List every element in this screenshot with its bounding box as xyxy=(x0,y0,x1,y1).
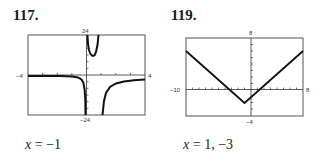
answer-119-value: 1, −3 xyxy=(204,137,233,152)
graph-117-left-branch xyxy=(28,76,86,115)
graph-119-frame xyxy=(186,38,303,116)
graph-117-xmax-label: 4 xyxy=(148,73,152,79)
graph-119-ymin-label: −4 xyxy=(246,119,254,125)
problem-117-answer: x = −1 xyxy=(25,137,61,153)
answer-117-equals: = xyxy=(31,137,46,152)
graph-119-xmax-label: 8 xyxy=(306,87,310,93)
graph-117: −4 4 24 −24 −10 8 xyxy=(0,0,331,158)
problem-119-answer: x = 1, −3 xyxy=(183,137,233,153)
graph-117-xmin-label: −4 xyxy=(16,73,24,79)
graph-117-middle-branch xyxy=(88,35,99,56)
graph-119-ymax-label: 8 xyxy=(249,30,253,36)
answer-119-equals: = xyxy=(189,137,204,152)
graph-119-v-curve xyxy=(186,51,303,103)
graph-117-ymin-label: −24 xyxy=(80,117,91,123)
graph-117-ymax-label: 24 xyxy=(82,28,89,34)
graph-117-right-branch xyxy=(103,80,146,116)
graph-119-xmin-label: −10 xyxy=(170,87,181,93)
answer-117-value: −1 xyxy=(46,137,61,152)
problem-119-number: 119. xyxy=(171,7,196,24)
